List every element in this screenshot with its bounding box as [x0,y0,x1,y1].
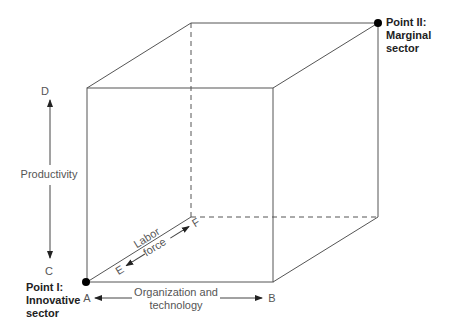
axis-a-label: A [83,292,91,304]
productivity-label: Productivity [21,168,78,180]
point-2-title: Point II: [386,16,426,28]
cube-diagram: Point II: Marginal sector Point I: Innov… [0,0,452,329]
point-1-line2: Innovative [26,294,80,306]
point-2-dot [374,19,382,27]
cube-edges [87,23,378,282]
hidden-edges [191,23,378,217]
point-2-line3: sector [386,42,420,54]
axis-e-label: E [113,263,126,277]
point-1-line3: sector [26,307,60,319]
labor-force-axis: E Labor force F [106,204,202,277]
point-2-line2: Marginal [386,29,431,41]
org-tech-label-line1: Organization and [134,286,218,298]
point-1-title: Point I: [26,281,63,293]
point-1-dot [82,278,90,286]
org-tech-label-line2: technology [149,299,203,311]
axis-d-label: D [41,85,49,97]
axis-c-label: C [45,265,53,277]
axis-b-label: B [268,292,275,304]
